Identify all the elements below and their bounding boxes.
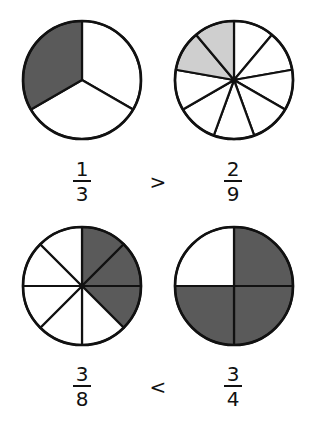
denominator: 8: [67, 389, 97, 409]
numerator: 1: [67, 159, 97, 179]
less-than-sign: <: [148, 377, 168, 397]
numerator: 3: [218, 364, 248, 384]
fraction-two-ninths: 2 9: [218, 159, 248, 204]
fraction-three-quarters: 3 4: [218, 364, 248, 409]
numerator: 2: [218, 159, 248, 179]
fraction-three-eighths: 3 8: [67, 364, 97, 409]
pie-two-ninths: [172, 18, 296, 142]
denominator: 9: [218, 184, 248, 204]
pie-one-third: [20, 18, 144, 142]
denominator: 3: [67, 184, 97, 204]
numerator: 3: [67, 364, 97, 384]
fraction-one-third: 1 3: [67, 159, 97, 204]
greater-than-sign: >: [148, 172, 168, 192]
denominator: 4: [218, 389, 248, 409]
pie-three-eighths: [20, 224, 144, 348]
pie-three-quarters: [172, 224, 296, 348]
